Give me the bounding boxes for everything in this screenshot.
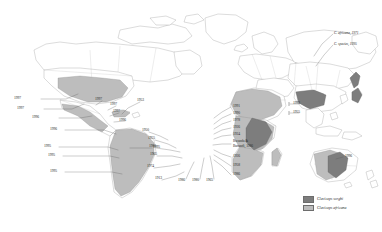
year-label-atlantic: 1953 (137, 99, 144, 103)
year-label-caribbean: 1997 (110, 103, 117, 107)
legend-label-africana: Claviceps africana (317, 206, 347, 210)
species-label-africana-japan: C. africana, 1971 (334, 32, 359, 36)
legend: Claviceps sorghi Claviceps africana (303, 196, 381, 214)
year-label-southern-africa: 1965 (206, 179, 213, 183)
year-label-australia: 1996 (345, 155, 352, 159)
legend-swatch-africana (303, 205, 314, 212)
year-label-west-africa: 1950 (142, 129, 149, 133)
year-label-southern-africa: 1980 (192, 179, 199, 183)
year-label-asia: 1955 (293, 111, 300, 115)
year-label-south-america: 1995 (50, 170, 57, 174)
year-label-east-africa: 1991 (233, 105, 240, 109)
legend-item-sorghi: Claviceps sorghi (303, 196, 381, 203)
year-label-west-africa: 1955 (148, 137, 155, 141)
legend-item-africana: Claviceps africana (303, 205, 381, 212)
world-distribution-figure: 1997 1997 1996 1997 1997 1997 1996 1953 … (0, 0, 382, 232)
region-label-rwanda-burundi: Burundi, 1986 (233, 145, 253, 149)
year-label-east-africa: 1924 (233, 133, 240, 137)
year-label-caribbean: 1997 (113, 110, 120, 114)
year-label-central-america: 1996 (119, 119, 126, 123)
legend-swatch-sorghi (303, 196, 314, 203)
year-label-caribbean: 1997 (95, 98, 102, 102)
year-label-north-america: 1997 (17, 107, 24, 111)
year-label-north-america: 1996 (32, 116, 39, 120)
year-label-east-africa: 1926 (233, 155, 240, 159)
year-label-east-africa: 1958 (233, 164, 240, 168)
year-label-west-africa: 1913 (155, 177, 162, 181)
species-label-species-japan: C. species, 1995 (334, 43, 357, 47)
year-label-west-africa: 1965 (150, 153, 157, 157)
year-label-west-africa: 1974 (147, 165, 154, 169)
year-label-east-africa: 1990 (233, 112, 240, 116)
year-label-north-america: 1997 (14, 97, 21, 101)
year-label-south-america: 1996 (50, 128, 57, 132)
legend-label-sorghi: Claviceps sorghi (317, 197, 343, 201)
year-label-west-africa: 1986 (149, 145, 156, 149)
year-label-east-africa: 1926 (233, 126, 240, 130)
year-label-south-america: 1995 (48, 154, 55, 158)
year-label-southern-africa: 1986 (178, 179, 185, 183)
year-label-south-america: 1995 (44, 145, 51, 149)
year-label-asia: 1993 (293, 102, 300, 106)
year-label-east-africa: 1978 (233, 119, 240, 123)
year-label-east-africa: 1986 (233, 173, 240, 177)
